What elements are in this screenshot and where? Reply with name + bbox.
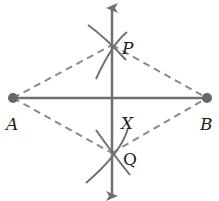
label-X: X (119, 113, 134, 133)
point-B (202, 93, 212, 103)
label-Q: Q (123, 149, 137, 169)
label-A: A (4, 114, 18, 134)
label-B: B (199, 114, 213, 134)
arc-from-B-lower (86, 128, 128, 183)
segment-AP (13, 45, 112, 98)
segment-AQ (13, 98, 112, 153)
point-A (8, 93, 18, 103)
label-P: P (121, 38, 134, 58)
arc-from-A-upper (88, 25, 126, 60)
perpendicular-bisector-diagram: A B P X Q (0, 0, 219, 201)
